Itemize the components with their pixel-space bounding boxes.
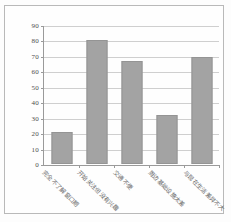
y-tick-label: 50 — [32, 84, 39, 92]
y-tick-label: 0 — [35, 161, 39, 169]
x-tick-mark — [219, 165, 220, 168]
y-tick-mark — [41, 72, 44, 73]
bar[interactable] — [87, 40, 108, 164]
y-tick-label: 30 — [32, 115, 39, 123]
bars-group — [45, 26, 219, 164]
bar[interactable] — [52, 132, 73, 164]
y-tick-mark — [41, 165, 44, 166]
bar[interactable] — [156, 115, 177, 164]
y-tick-mark — [41, 134, 44, 135]
plot-area: 9080706050403020100 — [43, 26, 219, 166]
y-tick-mark — [41, 119, 44, 120]
bar-slot — [45, 26, 80, 164]
y-tick-label: 10 — [32, 146, 39, 154]
y-tick-label: 90 — [32, 22, 39, 30]
bar-slot — [149, 26, 184, 164]
y-tick-mark — [41, 88, 44, 89]
y-tick-mark — [41, 150, 44, 151]
chart-screenshot: 9080706050403020100 完全不了解窗口期开始关注但没有兴趣交通不… — [0, 0, 231, 222]
bar-slot — [115, 26, 150, 164]
x-axis-labels-group: 完全不了解窗口期开始关注但没有兴趣交通不便周边基础设施太差与现在生活差异不大 — [43, 168, 219, 222]
y-tick-label: 60 — [32, 68, 39, 76]
x-axis-label-3: 交通不便 — [111, 168, 135, 192]
bar[interactable] — [191, 57, 212, 164]
y-tick-mark — [41, 41, 44, 42]
bar-slot — [184, 26, 219, 164]
y-tick-label: 80 — [32, 37, 39, 45]
chart-frame: 9080706050403020100 完全不了解窗口期开始关注但没有兴趣交通不… — [4, 5, 224, 214]
y-tick-mark — [41, 26, 44, 27]
y-tick-label: 20 — [32, 130, 39, 138]
bar[interactable] — [121, 61, 142, 164]
y-tick-mark — [41, 57, 44, 58]
y-tick-label: 40 — [32, 99, 39, 107]
y-tick-mark — [41, 103, 44, 104]
x-axis-label-5: 与现在生活差异不大 — [182, 168, 227, 213]
bar-slot — [80, 26, 115, 164]
y-tick-label: 70 — [32, 53, 39, 61]
